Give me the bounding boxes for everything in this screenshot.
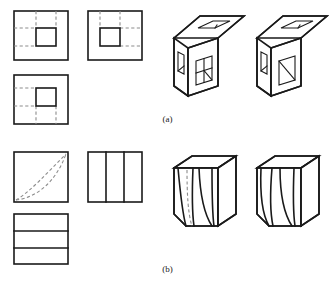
- part-a-isometric-group: [168, 4, 335, 114]
- bottom-left-view-inner-square: [36, 88, 56, 106]
- cube-right-front-hole: [279, 56, 295, 85]
- cube-left-side-slot: [178, 52, 184, 74]
- part-b-isometric-svg: [168, 150, 335, 260]
- top-right-view-inner-square: [100, 28, 120, 46]
- part-a-isometric-svg: [168, 4, 335, 114]
- caption-a: (a): [0, 114, 335, 124]
- cube-right-side-slot: [261, 52, 267, 74]
- top-left-view: [14, 11, 68, 60]
- cube-right: [257, 16, 327, 96]
- cube-left: [174, 16, 244, 96]
- caption-b: (b): [0, 264, 335, 274]
- part-b-isometric-group: [168, 150, 335, 260]
- part-b-orthographic-svg: [0, 140, 160, 275]
- part-b-orthographic-group: [0, 140, 160, 275]
- horizontal-division-view: [14, 214, 68, 264]
- top-right-view: [88, 11, 142, 60]
- curve-view: [14, 152, 68, 202]
- solid-right: [257, 156, 319, 226]
- top-left-view-inner-square: [36, 28, 56, 46]
- engineering-drawing-figure: (a): [0, 0, 335, 290]
- solid-left: [174, 156, 236, 226]
- cube-left-front-hole: [196, 56, 212, 85]
- vertical-division-view: [88, 152, 142, 202]
